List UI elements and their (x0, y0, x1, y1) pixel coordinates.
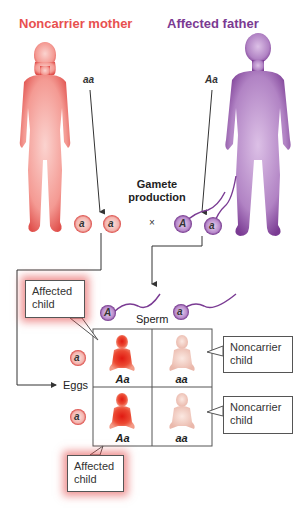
egg-allele-1: a (79, 218, 85, 229)
gamete-production-line1: Gamete (122, 178, 192, 191)
father-title: Affected father (167, 16, 259, 31)
callout-line1: Affected (32, 285, 78, 298)
callout-line2: child (74, 473, 117, 486)
callout-line1: Noncarrier (230, 341, 286, 354)
cell-genotype-2: aa (152, 373, 211, 385)
eggs-label: Eggs (63, 379, 88, 391)
callout-line2: child (230, 354, 286, 367)
punnett-sperm-allele-1: A (104, 307, 111, 318)
cross-symbol: × (149, 217, 155, 228)
callout-noncarrier-top: Noncarrier child (223, 336, 293, 373)
punnett-egg-allele-2: a (74, 411, 80, 422)
mother-title: Noncarrier mother (19, 16, 132, 31)
cell-genotype-4: aa (152, 432, 211, 444)
father-figure-icon (225, 33, 290, 236)
mother-figure-icon (20, 42, 71, 232)
punnett-egg-allele-1: a (74, 352, 80, 363)
egg-allele-2: a (108, 218, 114, 229)
sperm-allele-2: a (209, 220, 215, 231)
sperm-label: Sperm (136, 313, 168, 325)
callout-affected-top: Affected child (25, 280, 85, 318)
noncarrier-child-icon-2 (169, 393, 194, 429)
father-arrow (202, 90, 212, 212)
gamete-production-line2: production (122, 191, 192, 204)
father-genotype: Aa (205, 74, 218, 85)
callout-line2: child (32, 298, 78, 311)
mother-arrow (90, 90, 100, 212)
affected-child-icon-2 (109, 393, 134, 429)
callout-affected-bottom: Affected child (67, 455, 124, 492)
mother-genotype: aa (83, 74, 94, 85)
sperm-connector (152, 236, 202, 284)
callout-line1: Affected (74, 460, 117, 473)
punnett-sperm-allele-2: a (177, 306, 183, 317)
gamete-production-label: Gamete production (122, 178, 192, 204)
cell-genotype-1: Aa (93, 373, 152, 385)
sperm-allele-1: A (179, 218, 186, 229)
noncarrier-child-icon-1 (169, 335, 194, 371)
affected-child-icon-1 (109, 335, 134, 371)
callout-line2: child (230, 414, 286, 427)
callout-noncarrier-bottom: Noncarrier child (223, 396, 293, 434)
callout-line1: Noncarrier (230, 401, 286, 414)
cell-genotype-3: Aa (93, 432, 152, 444)
